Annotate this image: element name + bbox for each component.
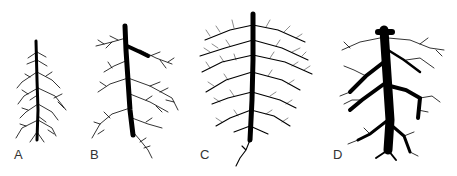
root-b-illustration [92, 26, 178, 158]
panel-label-a: A [14, 148, 23, 161]
root-a-illustration [16, 41, 66, 142]
root-systems-figure: A B C D [0, 0, 457, 176]
panel-label-d: D [333, 148, 342, 161]
panel-label-b: B [90, 148, 99, 161]
root-d-illustration [340, 30, 444, 160]
root-c-illustration [200, 14, 312, 166]
root-illustrations [0, 0, 457, 176]
panel-label-c: C [200, 148, 209, 161]
